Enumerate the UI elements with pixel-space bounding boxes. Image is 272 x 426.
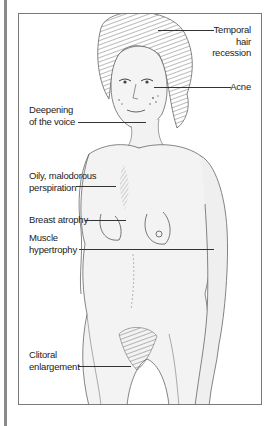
label-line: perspiration (29, 182, 96, 194)
label-clitoral-enlargement: Clitoral enlargement (29, 349, 80, 372)
label-line: Breast atrophy (29, 214, 88, 226)
label-oily-malodorous-perspiration: Oily, malodorous perspiration (29, 170, 96, 193)
label-line: of the voice (29, 116, 75, 128)
female-figure-illustration (19, 14, 262, 405)
label-line: Oily, malodorous (29, 170, 96, 182)
label-line: Deepening (29, 104, 75, 116)
label-line: Clitoral (29, 349, 80, 361)
label-line: Muscle (29, 232, 77, 244)
label-line: Temporal (212, 24, 251, 36)
leader-line-deepening-of-the-voice (78, 122, 146, 123)
label-acne: Acne (230, 81, 251, 93)
label-line: hypertrophy (29, 244, 77, 256)
leader-line-clitoral-enlargement (78, 366, 131, 367)
leader-line-temporal-hair-recession (158, 30, 214, 31)
leader-line-oily-malodorous-perspiration (76, 186, 116, 187)
leader-line-acne (154, 87, 231, 88)
label-line: recession (212, 47, 251, 59)
label-line: hair (212, 36, 251, 48)
label-line: enlargement (29, 361, 80, 373)
label-deepening-of-the-voice: Deepening of the voice (29, 104, 75, 127)
label-line: Acne (230, 81, 251, 93)
label-muscle-hypertrophy: Muscle hypertrophy (29, 232, 77, 255)
left-margin-bar (4, 0, 7, 426)
label-temporal-hair-recession: Temporal hair recession (212, 24, 251, 59)
leader-line-breast-atrophy (85, 220, 126, 221)
illustration-frame: Temporal hair recession Acne Deepening o… (18, 13, 262, 405)
label-breast-atrophy: Breast atrophy (29, 214, 88, 226)
leader-line-muscle-hypertrophy (79, 249, 214, 250)
